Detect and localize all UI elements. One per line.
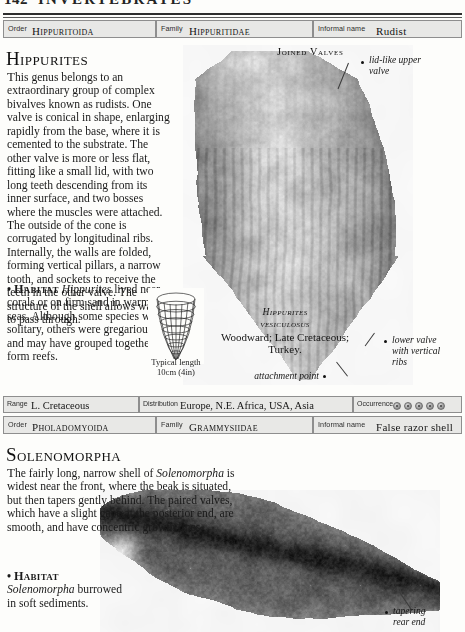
running-head: 142 INVERTEBRATES: [0, 0, 465, 13]
habitat-label: Habitat: [14, 282, 59, 296]
taxon-cell-order: Order Hippuritoida: [3, 20, 156, 38]
data-cell-occurrence: Occurrence: [353, 396, 462, 413]
book-page: 142 INVERTEBRATES Order Hippuritoida Fam…: [0, 0, 465, 632]
taxon-bar-solenomorpha: Order Pholadomyoida Family Grammysiidae …: [3, 416, 462, 434]
occurrence-dot: [426, 402, 434, 410]
habitat-label-2: Habitat: [14, 569, 59, 583]
callout-lid-like-upper-valve: lid-like upper valve: [369, 55, 461, 77]
callout-attachment-point: attachment point: [219, 371, 319, 382]
entry-title-solenomorpha: Solenomorpha: [6, 444, 121, 466]
taxon-cell-informal: Informal name Rudist: [313, 20, 462, 38]
habitat-bullet: •: [7, 283, 11, 296]
habitat-genus: Hippurites: [62, 283, 112, 296]
range-label: Range: [7, 400, 28, 407]
informal-name-label: Informal name: [318, 24, 365, 33]
occurrence-dot: [393, 402, 401, 410]
order-value: Hippuritoida: [32, 25, 94, 37]
occurrence-dot: [404, 402, 412, 410]
description-lead-2: T: [7, 465, 15, 480]
range-value: L. Cretaceous: [31, 400, 89, 411]
header-rule-thick: [3, 13, 462, 15]
entry-habitat-hippurites: • Habitat Hippurites lived near corals o…: [7, 283, 170, 364]
taxon-cell-order-2: Order Pholadomyoida: [3, 416, 156, 434]
occurrence-label: Occurrence: [357, 400, 393, 407]
order-label: Order: [8, 24, 27, 33]
specimen-species: vesiculosus: [210, 318, 360, 330]
family-label: Family: [161, 24, 183, 33]
habitat-bullet-2: •: [7, 570, 11, 583]
data-cell-distribution: Distribution Europe, N.E. Africa, USA, A…: [139, 396, 353, 413]
family-label-2: Family: [161, 420, 183, 429]
specimen-detail: Woodward; Late Cretaceous; Turkey.: [221, 331, 349, 355]
distribution-value: Europe, N.E. Africa, USA, Asia: [180, 400, 314, 411]
header-rule-thin: [3, 17, 462, 18]
distribution-label: Distribution: [143, 400, 178, 407]
scale-caption: Typical length 10cm (4in): [140, 358, 212, 378]
callout-lower-valve-with-vertical-ribs: lower valve with vertical ribs: [392, 335, 464, 367]
family-value: Hippuritidae: [189, 25, 250, 37]
specimen-genus: Hippurites: [210, 306, 360, 318]
informal-name-value: Rudist: [376, 25, 407, 37]
entry-title-hippurites: Hippurites: [6, 48, 88, 70]
taxon-bar-hippurites: Order Hippuritoida Family Hippuritidae I…: [3, 20, 462, 38]
data-cell-range: Range L. Cretaceous: [3, 396, 139, 413]
running-head-title: INVERTEBRATES: [38, 0, 193, 8]
specimen-caption-hippurites: Hippurites vesiculosus Woodward; Late Cr…: [210, 306, 360, 356]
taxon-cell-family-2: Family Grammysiidae: [156, 416, 313, 434]
data-bar-hippurites: Range L. Cretaceous Distribution Europe,…: [3, 396, 462, 413]
taxon-cell-family: Family Hippuritidae: [156, 20, 313, 38]
occurrence-dot: [437, 402, 445, 410]
taxon-cell-informal-2: Informal name False razor shell: [313, 416, 462, 434]
order-label-2: Order: [8, 420, 27, 429]
occurrence-rating: [393, 402, 445, 410]
family-value-2: Grammysiidae: [189, 421, 258, 433]
occurrence-dot: [415, 402, 423, 410]
callout-tapering-rear-end: tapering rear end: [393, 606, 459, 628]
informal-name-value-2: False razor shell: [376, 421, 453, 433]
informal-name-label-2: Informal name: [318, 420, 365, 429]
description-lead: T: [7, 69, 15, 84]
photo-subhead-joined-valves: Joined Valves: [277, 46, 343, 57]
order-value-2: Pholadomyoida: [32, 421, 109, 433]
page-folio: 142: [4, 0, 28, 8]
description-pre-2: he fairly long, narrow shell of: [15, 467, 156, 480]
description-genus-2: Solenomorpha: [156, 467, 224, 480]
entry-description-solenomorpha: The fairly long, narrow shell of Solenom…: [7, 466, 239, 534]
habitat-genus-2: Solenomorpha: [7, 583, 75, 596]
entry-habitat-solenomorpha: • Habitat Solenomorpha burrowed in soft …: [7, 570, 127, 610]
line-drawing-cone: [148, 288, 204, 364]
